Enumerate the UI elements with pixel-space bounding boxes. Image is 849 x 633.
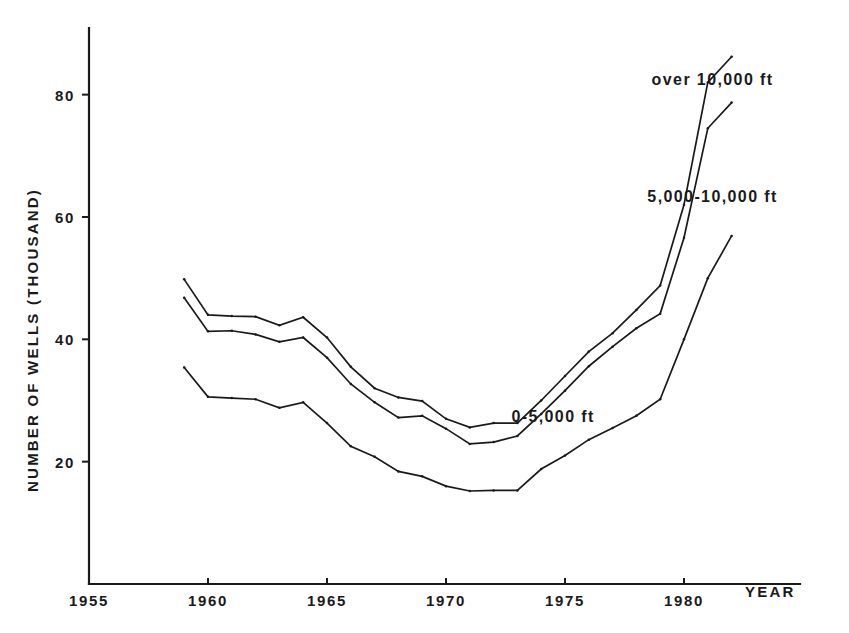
data-point: [540, 468, 543, 471]
data-point: [302, 336, 305, 339]
data-point: [683, 338, 686, 341]
data-point: [469, 426, 472, 429]
data-point: [516, 435, 519, 438]
y-tick-label: 20: [55, 454, 75, 471]
data-point: [373, 387, 376, 390]
data-point: [207, 396, 210, 399]
data-point: [635, 415, 638, 418]
data-point: [231, 330, 234, 333]
data-point: [445, 418, 448, 421]
x-axis-title: YEAR: [745, 583, 795, 600]
data-point: [730, 101, 733, 104]
data-point: [540, 399, 543, 402]
data-point: [302, 401, 305, 404]
series-line-0: [184, 57, 731, 428]
data-point: [492, 489, 495, 492]
data-point: [231, 397, 234, 400]
data-point: [278, 341, 281, 344]
data-point: [421, 475, 424, 478]
data-point: [350, 366, 353, 369]
data-point: [278, 407, 281, 410]
data-point: [659, 312, 662, 315]
data-point: [611, 345, 614, 348]
data-point: [445, 427, 448, 430]
series-line-1: [184, 103, 731, 444]
data-point: [707, 277, 710, 280]
series-line-2: [184, 236, 731, 491]
data-point: [350, 445, 353, 448]
data-point: [254, 333, 257, 336]
x-tick-label: 1955: [69, 592, 109, 609]
data-point: [588, 350, 591, 353]
data-point: [302, 316, 305, 319]
series-inline-labels: over 10,000 ft5,000-10,000 ft0-5,000 ft: [511, 71, 777, 424]
data-point: [397, 396, 400, 399]
x-tick-label: 1965: [307, 592, 347, 609]
y-tick-label: 60: [55, 209, 75, 226]
data-point: [326, 422, 329, 425]
data-point: [183, 278, 186, 281]
data-point: [730, 235, 733, 238]
data-point: [683, 237, 686, 240]
data-point: [278, 324, 281, 327]
data-point: [254, 398, 257, 401]
chart-canvas: 195519601965197019751980 20406080 over 1…: [0, 0, 849, 633]
data-point: [326, 356, 329, 359]
data-point: [397, 470, 400, 473]
data-point: [564, 389, 567, 392]
line-chart: 195519601965197019751980 20406080 over 1…: [0, 0, 849, 633]
chart-axes: [89, 28, 800, 584]
data-point: [326, 336, 329, 339]
series-label-1: 5,000-10,000 ft: [647, 188, 777, 205]
chart-series-lines: [183, 55, 733, 492]
data-point: [183, 296, 186, 299]
series-label-2: 0-5,000 ft: [511, 408, 594, 425]
x-tick-label: 1975: [545, 592, 585, 609]
data-point: [564, 375, 567, 378]
data-point: [588, 365, 591, 368]
data-point: [373, 401, 376, 404]
series-label-0: over 10,000 ft: [652, 71, 774, 88]
data-point: [635, 309, 638, 312]
data-point: [730, 55, 733, 58]
data-point: [207, 330, 210, 333]
data-point: [707, 127, 710, 130]
data-point: [659, 398, 662, 401]
y-axis-tick-labels: 20406080: [55, 87, 75, 471]
data-point: [421, 400, 424, 403]
data-point: [588, 438, 591, 441]
data-point: [421, 415, 424, 418]
data-point: [469, 490, 472, 493]
data-point: [231, 315, 234, 318]
data-point: [397, 416, 400, 419]
x-tick-label: 1970: [426, 592, 466, 609]
data-point: [611, 427, 614, 430]
y-axis-title: NUMBER OF WELLS (THOUSAND): [24, 188, 41, 492]
data-point: [254, 315, 257, 318]
data-point: [183, 366, 186, 369]
data-point: [635, 327, 638, 330]
data-point: [516, 489, 519, 492]
data-point: [469, 443, 472, 446]
data-point: [611, 332, 614, 335]
data-point: [492, 422, 495, 425]
data-point: [445, 485, 448, 488]
data-point: [207, 314, 210, 317]
y-tick-label: 80: [55, 87, 75, 104]
data-point: [492, 441, 495, 444]
data-point: [659, 284, 662, 287]
x-axis-tick-labels: 195519601965197019751980: [69, 592, 704, 609]
data-point: [350, 383, 353, 386]
x-tick-label: 1980: [664, 592, 704, 609]
data-point: [564, 454, 567, 457]
x-tick-label: 1960: [188, 592, 228, 609]
data-point: [373, 456, 376, 459]
y-tick-label: 40: [55, 331, 75, 348]
chart-tick-marks: [82, 95, 684, 585]
